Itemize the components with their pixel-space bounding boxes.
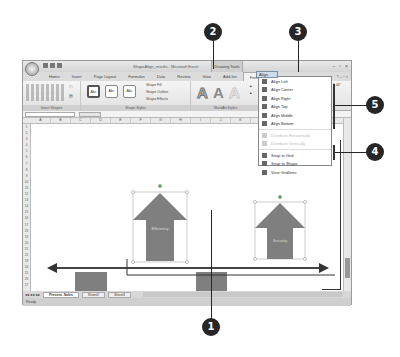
callout-line-1 — [211, 210, 212, 322]
shape-style-2[interactable]: Abc — [105, 85, 118, 98]
column-header[interactable]: A — [31, 118, 51, 123]
wordart-style-2[interactable]: A — [213, 84, 224, 101]
align-middle-icon — [262, 113, 267, 118]
tab-add-ins[interactable]: Add-Ins — [217, 72, 243, 81]
align-bottom-icon — [262, 121, 267, 126]
menu-item-label: Align Top — [271, 104, 287, 109]
shape-label-security: Security — [255, 238, 305, 243]
menu-item-distribute-horizontally: Distribute Horizontally — [259, 131, 331, 140]
sheet-tab-sheet3[interactable]: Sheet3 — [108, 292, 131, 298]
menu-item-label: Distribute Vertically — [271, 141, 305, 146]
column-header[interactable]: J — [211, 118, 231, 123]
edit-shape-icon[interactable]: ⬠ — [69, 85, 72, 89]
menu-item-align-bottom[interactable]: Align Bottom — [259, 120, 331, 129]
tab-home[interactable]: Home — [43, 72, 66, 81]
tab-review[interactable]: Review — [171, 72, 196, 81]
callout-line-4 — [335, 152, 370, 153]
view-gridlines-icon — [262, 170, 267, 175]
window-controls: – ▫ × — [333, 63, 348, 69]
align-top-icon — [262, 104, 267, 109]
fx-button[interactable] — [79, 112, 101, 117]
snap-to-shape-icon — [262, 161, 267, 166]
menu-item-align-middle[interactable]: Align Middle — [259, 111, 331, 120]
save-icon[interactable] — [43, 63, 48, 68]
row-headers: 1234567891011121314151617181920212223242… — [23, 124, 31, 291]
shape-style-1[interactable]: Abc — [87, 85, 100, 98]
horizontal-scrollbar[interactable] — [143, 292, 343, 297]
column-header[interactable]: I — [191, 118, 211, 123]
up-arrow-security-shape — [255, 202, 305, 259]
column-header[interactable]: C — [71, 118, 91, 123]
menu-item-label: View Gridlines — [271, 170, 297, 175]
distribute-vertically-icon — [262, 141, 267, 146]
sheet-tab-sheet2[interactable]: Sheet2 — [82, 292, 105, 298]
shape-style-3[interactable]: Abc — [123, 85, 136, 98]
shape-outline-button[interactable]: Shape Outline — [146, 90, 168, 94]
menu-item-label: Snap to Shape — [271, 161, 297, 166]
redo-icon[interactable] — [57, 63, 62, 68]
text-fill-icon[interactable]: ▲ — [249, 84, 252, 88]
callout-line-5 — [335, 105, 370, 106]
scroll-thumb[interactable] — [345, 258, 350, 278]
wordart-style-3[interactable]: A — [229, 84, 240, 101]
row-header[interactable]: 27 — [23, 282, 30, 288]
align-menu: Align LeftAlign CenterAlign RightAlign T… — [258, 76, 332, 166]
down-arrow-inventory-shape — [61, 272, 121, 291]
quick-access-toolbar — [43, 63, 62, 68]
menu-separator — [259, 149, 331, 150]
menu-item-snap-to-shape[interactable]: Snap to Shape — [259, 160, 331, 169]
shape-effects-button[interactable]: Shape Effects — [146, 97, 168, 101]
minimize-button[interactable]: – — [333, 63, 336, 69]
tab-formulas[interactable]: Formulas — [122, 72, 151, 81]
menu-item-snap-to-grid[interactable]: Snap to Grid — [259, 151, 331, 160]
sheet-tab-present-sales[interactable]: Present. Sales — [43, 292, 79, 298]
text-box-icon[interactable]: ▤ — [69, 94, 73, 98]
align-left-icon — [262, 79, 267, 84]
bracket-5 — [333, 84, 335, 129]
office-button[interactable] — [25, 62, 39, 76]
vertical-scrollbar[interactable] — [343, 118, 351, 291]
tab-insert[interactable]: Insert — [66, 72, 88, 81]
menu-item-align-left[interactable]: Align Left — [259, 77, 331, 86]
distribute-horizontally-icon — [262, 133, 267, 138]
wordart-styles-group: A A A ▲ ▲ WordArt Styles — [191, 81, 261, 111]
wordart-style-1[interactable]: A — [197, 84, 208, 101]
menu-item-align-center[interactable]: Align Center — [259, 86, 331, 95]
column-header[interactable]: F — [131, 118, 151, 123]
menu-item-view-gridlines[interactable]: View Gridlines — [259, 168, 331, 177]
name-box[interactable] — [25, 112, 75, 117]
status-bar: Ready — [23, 298, 351, 306]
tab-data[interactable]: Data — [151, 72, 171, 81]
menu-item-align-right[interactable]: Align Right — [259, 94, 331, 103]
help-icon[interactable]: ? – ▫ × — [336, 74, 348, 79]
sheet-nav-icon[interactable]: ◂◂ ◂ ▸ ▸▸ — [25, 293, 40, 297]
menu-item-label: Snap to Grid — [271, 153, 293, 158]
close-button[interactable]: × — [345, 63, 348, 69]
text-outline-icon[interactable]: ▲ — [249, 91, 252, 95]
menu-item-label: Align Center — [271, 87, 293, 92]
callout-line-2 — [213, 40, 214, 69]
shape-fill-button[interactable]: Shape Fill — [146, 83, 162, 87]
bracket-line — [340, 140, 341, 290]
callout-1: 1 — [202, 318, 220, 336]
restore-button[interactable]: ▫ — [339, 63, 341, 69]
column-header[interactable]: D — [91, 118, 111, 123]
drawing-tools-context: Drawing Tools — [211, 61, 243, 72]
callout-4: 4 — [366, 143, 384, 161]
undo-icon[interactable] — [50, 63, 55, 68]
column-header[interactable]: G — [151, 118, 171, 123]
column-header[interactable]: E — [111, 118, 131, 123]
menu-item-label: Distribute Horizontally — [271, 133, 310, 138]
shapes-gallery[interactable] — [26, 84, 66, 101]
tab-view[interactable]: View — [196, 72, 217, 81]
callout-5: 5 — [366, 96, 384, 114]
column-header[interactable]: B — [51, 118, 71, 123]
menu-separator — [259, 129, 331, 130]
align-button[interactable]: Align — [256, 71, 278, 78]
menu-item-label: Align Bottom — [271, 121, 294, 126]
column-header[interactable]: K — [231, 118, 251, 123]
menu-item-align-top[interactable]: Align Top — [259, 103, 331, 112]
column-header[interactable]: H — [171, 118, 191, 123]
insert-shapes-group: ⬠ ▤ Insert Shapes — [23, 81, 81, 111]
tab-page-layout[interactable]: Page Layout — [88, 72, 122, 81]
